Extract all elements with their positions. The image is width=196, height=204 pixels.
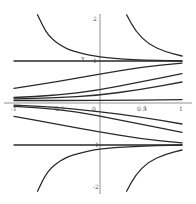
curve-solution-b: [14, 74, 182, 98]
tick-labels: -1-0.500.5121-1-2: [11, 15, 183, 190]
axes: [4, 14, 192, 194]
x-tick-label: 1: [179, 105, 183, 112]
curve-solution-d: [14, 100, 182, 101]
curve-upper-left-blowup: [38, 15, 183, 61]
curve-solution-a: [14, 63, 182, 88]
y-tick-label: 2: [93, 15, 97, 22]
axis-annotation: y: [80, 54, 85, 62]
curve-lower-left-blowup: [38, 145, 183, 191]
axis-annotation: t: [144, 104, 147, 111]
y-tick-label: -2: [93, 183, 99, 190]
curve-solution-g: [14, 116, 182, 142]
solution-curves-chart: -1-0.500.5121-1-2 yt: [0, 0, 196, 204]
curve-upper-right-blowup: [127, 15, 182, 56]
curve-lower-right-blowup: [127, 150, 182, 191]
